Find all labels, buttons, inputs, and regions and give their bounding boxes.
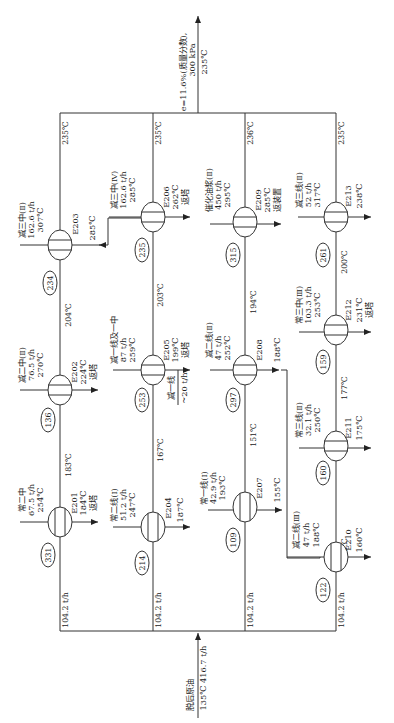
exchanger-id: E210 — [343, 529, 353, 551]
duty-value: 122 — [319, 583, 328, 598]
destination: 返塔 — [180, 189, 190, 205]
inlet-temp: 254℃ — [35, 488, 45, 513]
destination: 返塔 — [180, 342, 190, 358]
outlet-temp: 160℃ — [354, 528, 364, 553]
exchanger-id: E213 — [343, 185, 353, 207]
side-draw-flow: ~20 t/h — [179, 372, 189, 404]
feed-label: 脱后原油 135℃ 416.7 t/h — [185, 645, 208, 711]
inlet-temp: 247℃ — [127, 493, 137, 518]
exchanger-E201[interactable]: 常二中 67.5 t/h 254℃ E201 184℃ 返塔 331 — [17, 483, 98, 567]
outlet-temp: 184℃ — [78, 491, 88, 516]
feed-conditions: 135℃ 416.7 t/h — [198, 645, 208, 710]
feed-name: 脱后原油 — [185, 679, 195, 711]
heat-exchanger-network-diagram: 脱后原油 135℃ 416.7 t/h e=11.6%(质量分数), 300 k… — [0, 0, 394, 723]
duty-value: 234 — [46, 276, 55, 291]
exchanger-E204[interactable]: 常二线(Ⅰ) 51.2 t/h 247℃ E204 187℃ 214 — [109, 488, 190, 575]
inlet-temp: 252℃ — [222, 336, 232, 361]
exchanger-id: E203 — [70, 213, 80, 235]
outlet-temp: 231℃ — [354, 298, 364, 323]
branch-3-flow: 104.2 t/h — [246, 592, 255, 628]
branch-2-flow: 104.2 t/h — [154, 592, 163, 628]
exchanger-id: E211 — [343, 417, 353, 439]
outlet-temp: 238℃ — [354, 184, 364, 209]
outlet-temp: 235℃ — [199, 50, 209, 75]
outlet-temp: 155℃ — [272, 478, 282, 503]
outlet-temp: 175℃ — [354, 416, 364, 441]
stream-flow: 47 t/h — [301, 522, 311, 547]
duty-value: 261 — [319, 248, 328, 263]
outlet-temp: 285℃ — [87, 216, 97, 241]
main-piping — [60, 16, 336, 718]
exchanger-E211[interactable]: 常三线(Ⅱ) 32.1 t/h 250℃ E211 175℃ 160 — [294, 402, 371, 485]
temp-183: 183℃ — [64, 453, 73, 477]
duty-value: 160 — [319, 466, 328, 481]
inlet-temp: 259℃ — [127, 338, 137, 363]
duty-value: 235 — [138, 243, 147, 258]
exchanger-E207[interactable]: 常一线(Ⅰ) 42.9 t/h 193℃ E207 155℃ 109 — [199, 471, 282, 552]
inlet-temp: 250℃ — [312, 408, 322, 433]
exchanger-id: E208 — [254, 339, 264, 361]
duty-value: 297 — [229, 393, 238, 408]
outlet-temp: 187℃ — [175, 498, 185, 523]
exchanger-E208[interactable]: 减二线(Ⅱ) 47 t/h 252℃ E208 188℃ 297 — [204, 322, 320, 558]
outlet-temp: 285℃ — [262, 188, 272, 213]
outlet-pressure: 300 kPa — [187, 43, 197, 76]
exchanger-E203[interactable]: 减三中(Ⅱ) 162.6 t/h 307℃ E203 285℃ 234 — [17, 201, 150, 295]
duty-value: 214 — [138, 556, 147, 571]
stream-name: 减二线(Ⅲ) — [291, 511, 301, 549]
exchanger-id: E207 — [254, 477, 264, 499]
destination: 返塔 — [88, 364, 98, 380]
exchanger-E209[interactable]: 催化油浆(Ⅱ) 450 t/h 295℃ E209 285℃ 返装置 315 — [204, 168, 282, 267]
exchanger-id: E212 — [343, 299, 353, 321]
outlet-label: e=11.6%(质量分数), 300 kPa 235℃ — [178, 33, 209, 112]
exchanger-id: E204 — [163, 497, 173, 519]
branch-1-flow: 104.2 t/h — [61, 592, 70, 628]
exchanger-E212[interactable]: 常三中(Ⅲ) 103.3 t/h 253℃ E212 231℃ 返塔 159 — [294, 286, 374, 374]
exchanger-symbol — [48, 230, 72, 260]
inlet-temp: 285℃ — [127, 178, 137, 203]
exchanger-E206[interactable]: 减三中(Ⅳ) 162.6 t/h 285℃ E206 262℃ 返塔 235 — [109, 171, 190, 262]
inlet-temp: 188℃ — [311, 523, 321, 548]
outlet-temp: 188℃ — [272, 338, 282, 363]
inlet-temp: 295℃ — [222, 183, 232, 208]
exchanger-E210[interactable]: 减二线(Ⅲ) 47 t/h 188℃ E210 160℃ 122 — [287, 511, 371, 602]
inlet-temp: 317℃ — [312, 183, 322, 208]
outlet-temp: 262℃ — [170, 185, 180, 210]
temp-194: 194℃ — [249, 290, 258, 314]
branch-1-outlet-temp: 235℃ — [61, 121, 70, 145]
branch-2-outlet-temp: 235℃ — [154, 121, 163, 145]
temp-167: 167℃ — [156, 438, 165, 462]
inlet-temp: 270℃ — [35, 353, 45, 378]
inlet-temp: 253℃ — [312, 293, 322, 318]
branch-4-outlet-temp: 235℃ — [337, 121, 346, 145]
temp-177: 177℃ — [340, 376, 349, 400]
temp-203: 203℃ — [156, 283, 165, 307]
inlet-temp: 307℃ — [35, 208, 45, 233]
outlet-temp: 199℃ — [170, 338, 180, 363]
destination: 返装置 — [272, 188, 282, 212]
duty-value: 159 — [319, 355, 328, 370]
temp-200: 200℃ — [340, 250, 349, 274]
exchanger-E213[interactable]: 减三线(Ⅱ) 52 t/h 317℃ E213 238℃ 261 — [294, 172, 371, 267]
side-draw: 减一线 — [166, 376, 176, 400]
outlet-temp: 224℃ — [78, 360, 88, 385]
exchanger-E205[interactable]: 减一线及一中 87 t/h 259℃ E205 199℃ 返塔 减一线 ~20 … — [109, 316, 190, 412]
duty-value: 109 — [229, 533, 238, 548]
inlet-temp: 193℃ — [217, 476, 227, 501]
exchanger-E202[interactable]: 减二中(Ⅱ) 76.5 t/h 270℃ E202 224℃ 返塔 136 — [17, 347, 98, 432]
destination: 返塔 — [88, 495, 98, 511]
branch-4-flow: 104.2 t/h — [337, 592, 346, 628]
duty-value: 253 — [138, 393, 147, 408]
branch-3-outlet-temp: 236℃ — [246, 121, 255, 145]
destination: 返塔 — [364, 302, 374, 318]
duty-value: 136 — [44, 413, 53, 428]
duty-value: 315 — [229, 248, 238, 263]
temp-204: 204℃ — [64, 303, 73, 327]
duty-value: 331 — [44, 548, 53, 563]
temp-151: 151℃ — [249, 423, 258, 447]
